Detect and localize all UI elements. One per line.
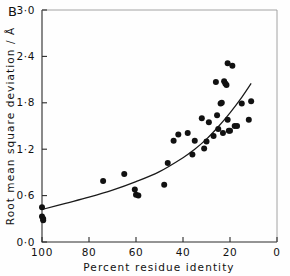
- data-point: [171, 138, 177, 144]
- scatter-points: [39, 60, 254, 223]
- plot-frame: [42, 10, 277, 242]
- data-point: [132, 186, 138, 192]
- y-tick-label: 0·6: [17, 189, 36, 201]
- x-axis-title: Percent residue identity: [83, 261, 234, 273]
- y-axis-title: Root mean square deviation / Å: [4, 27, 16, 226]
- data-point: [135, 193, 141, 199]
- data-point: [220, 130, 226, 136]
- data-point: [214, 112, 220, 118]
- y-tick-label: 2·4: [17, 50, 36, 62]
- data-point: [201, 145, 207, 151]
- y-axis-tick-labels: 0·00·61·21·82·43·0: [17, 4, 36, 248]
- x-tick-label: 60: [129, 246, 144, 258]
- data-point: [121, 171, 127, 177]
- x-tick-label: 20: [223, 246, 238, 258]
- data-point: [192, 138, 198, 144]
- y-tick-label: 1·8: [17, 96, 36, 108]
- data-point: [189, 152, 195, 158]
- data-point: [165, 160, 171, 166]
- axis-lines: [42, 10, 277, 242]
- data-point: [39, 204, 45, 210]
- data-point: [204, 138, 210, 144]
- data-point: [246, 117, 252, 123]
- data-point: [199, 115, 205, 121]
- data-point: [211, 133, 217, 139]
- x-tick-label: 0: [273, 246, 280, 258]
- x-axis-tick-labels: 100806040200: [31, 246, 281, 258]
- data-point: [206, 119, 212, 125]
- scatter-plot-svg: B 0·00·61·21·82·43·0 100806040200 Percen…: [0, 0, 290, 276]
- data-point: [161, 182, 167, 188]
- x-axis-ticks: [42, 237, 277, 242]
- y-tick-label: 3·0: [17, 4, 36, 16]
- data-point: [40, 217, 46, 223]
- data-point: [234, 123, 240, 129]
- data-point: [225, 117, 231, 123]
- data-point: [100, 178, 106, 184]
- y-tick-label: 1·2: [17, 143, 36, 155]
- chart-figure: B 0·00·61·21·82·43·0 100806040200 Percen…: [0, 0, 290, 276]
- data-point: [175, 132, 181, 138]
- data-point: [239, 101, 245, 107]
- data-point: [248, 98, 254, 104]
- data-point: [213, 79, 219, 85]
- data-point: [223, 82, 229, 88]
- x-tick-label: 80: [82, 246, 97, 258]
- data-point: [185, 130, 191, 136]
- data-point: [219, 100, 225, 106]
- data-point: [227, 128, 233, 134]
- data-point: [229, 63, 235, 69]
- x-tick-label: 40: [176, 246, 191, 258]
- x-tick-label: 100: [31, 246, 53, 258]
- data-point: [215, 126, 221, 132]
